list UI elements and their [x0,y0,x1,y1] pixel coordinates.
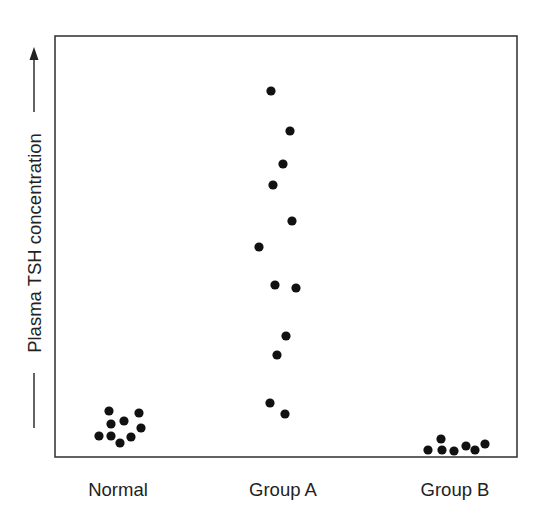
data-point [281,331,290,340]
data-point [119,416,128,425]
series-group-a [254,86,300,418]
data-point [480,439,489,448]
data-point [461,441,470,450]
data-points [94,86,489,455]
data-point [104,406,113,415]
data-point [136,423,145,432]
data-point [285,126,294,135]
category-labels: Normal Group A Group B [88,479,489,500]
data-point [254,242,263,251]
series-group-b [423,434,489,455]
y-axis-label: Plasma TSH concentration [24,133,45,353]
data-point [291,283,300,292]
data-point [436,434,445,443]
tsh-strip-chart: Plasma TSH concentration Normal Group A … [0,0,544,527]
data-point [423,445,432,454]
y-axis-label-group: Plasma TSH concentration [24,47,45,428]
category-label-normal: Normal [88,479,148,500]
category-label-group-b: Group B [421,479,490,500]
up-arrow-icon [30,47,39,60]
category-label-group-a: Group A [249,479,318,500]
data-point [268,180,277,189]
data-point [449,446,458,455]
data-point [94,431,103,440]
data-point [106,431,115,440]
data-point [265,398,274,407]
data-point [115,438,124,447]
data-point [134,408,143,417]
plot-frame [55,36,517,457]
data-point [106,419,115,428]
data-point [437,445,446,454]
data-point [126,432,135,441]
data-point [272,350,281,359]
data-point [280,409,289,418]
data-point [270,280,279,289]
data-point [470,445,479,454]
data-point [266,86,275,95]
data-point [278,159,287,168]
series-normal [94,406,145,447]
data-point [287,216,296,225]
